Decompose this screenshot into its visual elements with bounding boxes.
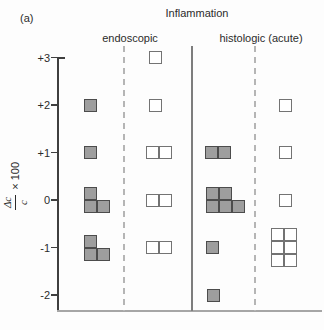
y-tick-mark xyxy=(51,152,57,154)
x-axis-baseline xyxy=(57,310,322,312)
y-axis-label-suffix: × 100 xyxy=(9,162,21,190)
figure-panel: (a) Inflammation endoscopic histologic (… xyxy=(0,0,324,330)
y-tick-label: +2 xyxy=(0,98,50,112)
data-square-open xyxy=(279,146,292,159)
data-square-filled xyxy=(84,248,97,261)
y-tick-mark xyxy=(51,104,57,106)
data-square-filled xyxy=(205,146,218,159)
data-square-filled xyxy=(219,187,232,200)
y-tick-label: -1 xyxy=(0,241,50,255)
data-square-open xyxy=(146,146,159,159)
y-axis-top-serif xyxy=(57,57,65,59)
y-tick-label: 0 xyxy=(0,193,50,207)
data-square-open xyxy=(146,241,159,254)
separator-solid-groups xyxy=(191,46,193,311)
chart-title: Inflammation xyxy=(166,7,229,19)
data-square-filled xyxy=(219,200,232,213)
data-square-open xyxy=(159,241,172,254)
data-square-open xyxy=(159,194,172,207)
data-square-open xyxy=(279,194,292,207)
y-axis-line xyxy=(57,57,59,311)
data-square-filled xyxy=(84,235,97,248)
y-tick-mark xyxy=(51,294,57,296)
data-square-open xyxy=(271,228,284,241)
data-square-open xyxy=(149,51,162,64)
data-square-open xyxy=(284,254,297,267)
data-square-filled xyxy=(218,146,231,159)
data-square-open xyxy=(271,254,284,267)
data-square-filled xyxy=(206,200,219,213)
y-tick-mark xyxy=(51,57,57,59)
panel-label: (a) xyxy=(20,12,33,24)
data-square-open xyxy=(271,241,284,254)
separator-dashed-histologic xyxy=(254,46,256,311)
y-tick-mark xyxy=(51,199,57,201)
group-header-endoscopic: endoscopic xyxy=(102,32,158,44)
y-tick-mark xyxy=(51,247,57,249)
data-square-open xyxy=(146,194,159,207)
data-square-filled xyxy=(207,289,220,302)
data-square-open xyxy=(149,99,162,112)
data-square-open xyxy=(159,146,172,159)
group-header-histologic: histologic (acute) xyxy=(219,32,302,44)
data-square-filled xyxy=(97,248,110,261)
data-square-filled xyxy=(84,187,97,200)
separator-dashed-endoscopic xyxy=(123,46,125,311)
data-square-filled xyxy=(84,99,97,112)
data-square-filled xyxy=(84,146,97,159)
y-tick-label: -2 xyxy=(0,288,50,302)
y-axis-label: Δc c × 100 xyxy=(2,151,28,221)
data-square-filled xyxy=(97,200,110,213)
data-square-open xyxy=(284,241,297,254)
data-square-filled xyxy=(84,200,97,213)
data-square-open xyxy=(284,228,297,241)
data-square-filled xyxy=(232,200,245,213)
y-tick-label: +3 xyxy=(0,51,50,65)
data-square-filled xyxy=(206,187,219,200)
data-square-filled xyxy=(206,241,219,254)
data-square-open xyxy=(279,99,292,112)
y-tick-label: +1 xyxy=(0,146,50,160)
